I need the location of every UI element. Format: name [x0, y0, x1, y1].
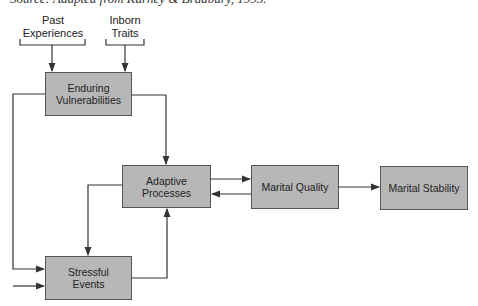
node-enduring-vulnerabilities: Enduring Vulnerabilities: [45, 72, 132, 116]
input-past-experiences: Past Experiences: [16, 14, 90, 40]
input-inborn-traits: Inborn Traits: [100, 14, 150, 40]
node-marital-stability: Marital Stability: [380, 166, 468, 210]
node-marital-quality: Marital Quality: [251, 165, 339, 209]
node-adaptive-processes: Adaptive Processes: [122, 165, 211, 208]
node-stressful-events: Stressful Events: [45, 256, 132, 300]
